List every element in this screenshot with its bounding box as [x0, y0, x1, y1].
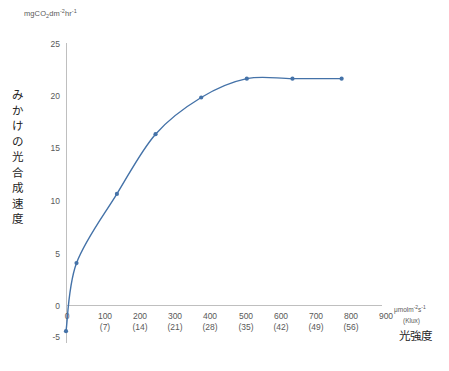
- data-point: [115, 192, 119, 196]
- data-point: [74, 261, 78, 265]
- chart-container: mgCO2dm-2hr-1 み か け の 光 合 成 速 度 25 20 15…: [0, 0, 449, 371]
- plot-area: [0, 0, 449, 371]
- series-curve: [66, 77, 342, 331]
- data-point: [340, 77, 344, 81]
- data-point: [153, 132, 157, 136]
- series-line: [66, 77, 342, 331]
- data-point: [199, 95, 203, 99]
- data-point: [64, 329, 68, 333]
- data-point: [290, 77, 294, 81]
- data-point: [245, 77, 249, 81]
- series-markers: [64, 77, 344, 334]
